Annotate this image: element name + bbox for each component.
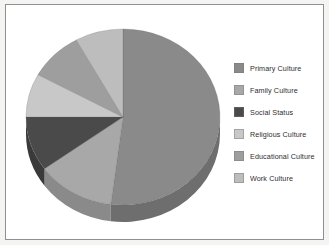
legend-item-religious-culture[interactable]: Religious Culture <box>234 123 326 145</box>
legend-item-work-culture[interactable]: Work Culture <box>234 167 326 189</box>
chart-frame: Primary Culture Family Culture Social St… <box>5 4 324 240</box>
pie-chart-svg <box>6 5 231 239</box>
pie-slices <box>26 29 220 205</box>
legend-swatch-icon <box>234 63 244 73</box>
pie-chart-plot-area <box>6 5 231 239</box>
legend-item-label: Educational Culture <box>250 152 315 161</box>
screenshot-root: Primary Culture Family Culture Social St… <box>0 0 329 245</box>
legend-item-primary-culture[interactable]: Primary Culture <box>234 57 326 79</box>
legend-swatch-icon <box>234 151 244 161</box>
legend-item-family-culture[interactable]: Family Culture <box>234 79 326 101</box>
legend-item-label: Religious Culture <box>250 130 306 139</box>
legend-item-label: Work Culture <box>250 174 293 183</box>
legend-item-label: Family Culture <box>250 86 298 95</box>
legend-swatch-icon <box>234 107 244 117</box>
legend-swatch-icon <box>234 129 244 139</box>
legend-item-social-status[interactable]: Social Status <box>234 101 326 123</box>
legend-swatch-icon <box>234 85 244 95</box>
chart-legend: Primary Culture Family Culture Social St… <box>234 57 326 189</box>
legend-item-educational-culture[interactable]: Educational Culture <box>234 145 326 167</box>
legend-swatch-icon <box>234 173 244 183</box>
legend-item-label: Primary Culture <box>250 64 301 73</box>
legend-item-label: Social Status <box>250 108 293 117</box>
